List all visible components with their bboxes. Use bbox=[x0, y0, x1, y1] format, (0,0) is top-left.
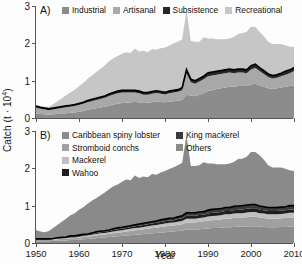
panel-a-x-tick bbox=[208, 118, 209, 122]
panel-a-plot-area bbox=[36, 6, 294, 118]
panel-b-legend-label: Stromboid conchs bbox=[72, 143, 139, 153]
panel-b-y-tick-label: 2 bbox=[24, 163, 30, 174]
panel-b-legend-label: Mackerel bbox=[72, 155, 106, 165]
panel-a-legend-item[interactable]: Artisanal bbox=[113, 5, 156, 15]
panel-a-legend: IndustrialArtisanalSubsistenceRecreation… bbox=[62, 5, 282, 15]
panel-a-x-tick bbox=[165, 118, 166, 122]
legend-swatch-icon bbox=[62, 157, 69, 164]
panel-b-x-tick bbox=[208, 243, 209, 247]
panel-b-y-tick-label: 1 bbox=[24, 200, 30, 211]
panel-a-y-tick-label: 1 bbox=[24, 75, 30, 86]
x-axis-title: Year bbox=[36, 250, 294, 261]
panel-a-area-chart bbox=[36, 6, 294, 118]
panel-a-legend-label: Artisanal bbox=[123, 5, 156, 15]
panel-b-legend: Caribbean spiny lobsterStromboid conchsM… bbox=[62, 130, 239, 178]
panel-b-legend-item[interactable]: Wahoo bbox=[62, 168, 160, 178]
panel-a-y-tick bbox=[32, 6, 36, 7]
panel-b-legend-label: Wahoo bbox=[72, 168, 98, 178]
panel-b-x-tick bbox=[165, 243, 166, 247]
panel-b-tag: B) bbox=[40, 129, 51, 141]
panel-a-x-tick bbox=[122, 118, 123, 122]
panel-a-tag: A) bbox=[40, 4, 51, 16]
panel-b-legend-item[interactable]: Others bbox=[176, 143, 239, 153]
y-axis-title-prefix: Catch (t · 10 bbox=[2, 96, 13, 152]
panel-b-legend-column: King mackerelOthers bbox=[176, 130, 239, 178]
legend-swatch-icon bbox=[176, 132, 183, 139]
panel-b-legend-column: Caribbean spiny lobsterStromboid conchsM… bbox=[62, 130, 160, 178]
legend-swatch-icon bbox=[62, 144, 69, 151]
panel-b-legend-item[interactable]: Mackerel bbox=[62, 155, 160, 165]
panel-b-legend-label: King mackerel bbox=[186, 130, 239, 140]
panel-b-x-tick bbox=[251, 243, 252, 247]
y-axis-title-suffix: ) bbox=[2, 88, 13, 91]
legend-swatch-icon bbox=[176, 144, 183, 151]
legend-swatch-icon bbox=[113, 7, 120, 14]
panel-b-y-tick bbox=[32, 168, 36, 169]
panel-b-legend-item[interactable]: Stromboid conchs bbox=[62, 143, 160, 153]
panel-b-y-tick bbox=[32, 206, 36, 207]
panel-b-legend-label: Caribbean spiny lobster bbox=[72, 130, 160, 140]
panel-a-y-tick bbox=[32, 43, 36, 44]
panel-b-legend-item[interactable]: King mackerel bbox=[176, 130, 239, 140]
panel-b-y-tick bbox=[32, 131, 36, 132]
panel-b-x-tick bbox=[294, 243, 295, 247]
panel-a-x-tick bbox=[294, 118, 295, 122]
panel-b-x-tick bbox=[36, 243, 37, 247]
panel-a-x-tick bbox=[251, 118, 252, 122]
panel-b-legend-label: Others bbox=[186, 143, 211, 153]
y-axis-title: Catch (t · 104) bbox=[0, 0, 14, 240]
panel-a-legend-label: Industrial bbox=[72, 5, 106, 15]
panel-a-y-tick-label: 0 bbox=[24, 113, 30, 124]
panel-a-legend-label: Recreational bbox=[235, 5, 282, 15]
figure-container: Catch (t · 104) 0123 A) IndustrialArtisa… bbox=[0, 0, 302, 264]
panel-b-x-tick bbox=[79, 243, 80, 247]
panel-a-x-axis bbox=[35, 118, 293, 119]
panel-b-x-axis bbox=[35, 243, 293, 244]
panel-a-y-tick-label: 2 bbox=[24, 38, 30, 49]
legend-swatch-icon bbox=[62, 7, 69, 14]
panel-a-y-tick-label: 3 bbox=[24, 1, 30, 12]
panel-a-legend-item[interactable]: Recreational bbox=[225, 5, 282, 15]
panel-b-legend-item[interactable]: Caribbean spiny lobster bbox=[62, 130, 160, 140]
panel-b-x-tick bbox=[122, 243, 123, 247]
panel-b-y-tick-label: 3 bbox=[24, 126, 30, 137]
legend-swatch-icon bbox=[225, 7, 232, 14]
panel-a-x-tick bbox=[79, 118, 80, 122]
panel-a-legend-item[interactable]: Industrial bbox=[62, 5, 106, 15]
panel-b-y-tick-label: 0 bbox=[24, 238, 30, 249]
legend-swatch-icon bbox=[62, 132, 69, 139]
y-axis-title-exponent: 4 bbox=[1, 92, 8, 96]
panel-a-y-tick bbox=[32, 81, 36, 82]
panel-a-legend-label: Subsistence bbox=[173, 5, 219, 15]
legend-swatch-icon bbox=[163, 7, 170, 14]
panel-a: 0123 bbox=[36, 6, 294, 118]
panel-a-legend-item[interactable]: Subsistence bbox=[163, 5, 219, 15]
panel-a-x-tick bbox=[36, 118, 37, 122]
legend-swatch-icon bbox=[62, 169, 69, 176]
